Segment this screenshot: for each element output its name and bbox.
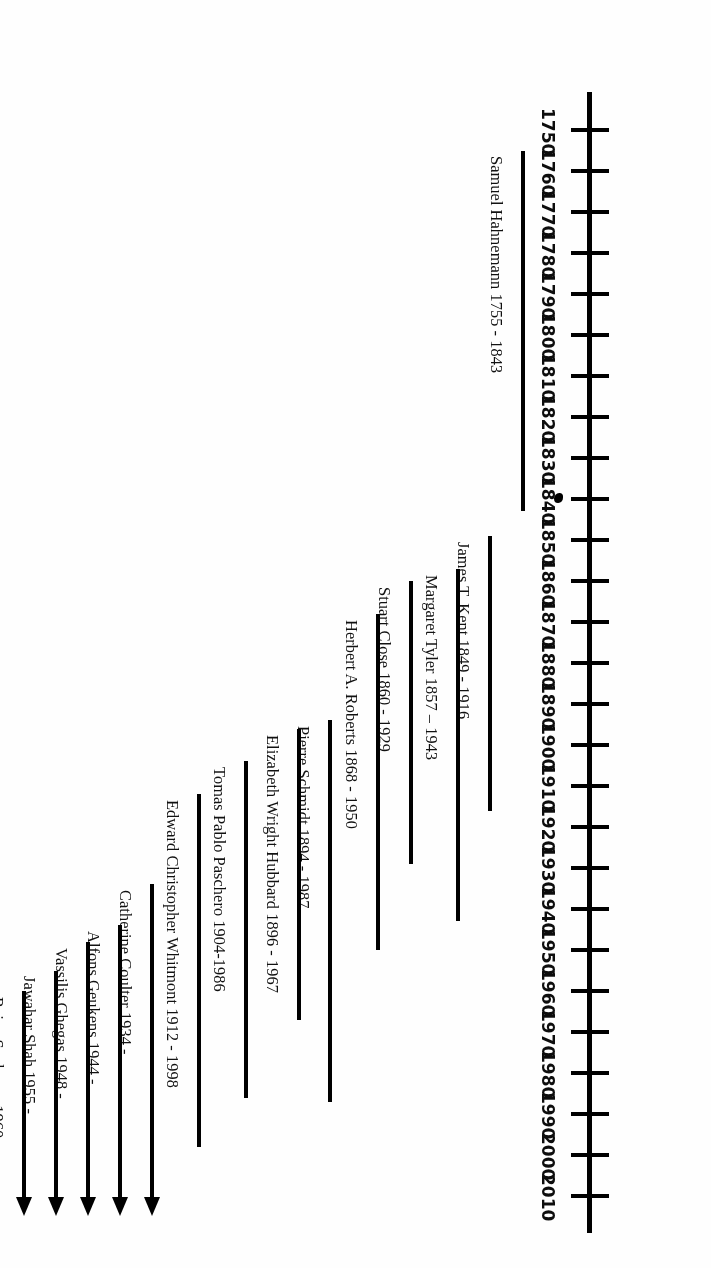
lifespan-label: Pierre Schmidt 1894 - 1987: [293, 726, 313, 908]
year-tick: [571, 1194, 609, 1198]
lifespan-bar: [244, 761, 248, 1097]
lifespan-label: Elizabeth Wright Hubbard 1896 - 1967: [262, 735, 282, 993]
year-tick: [571, 1112, 609, 1116]
lifespan-bar: [409, 581, 413, 864]
year-tick: [571, 333, 609, 337]
year-tick: [571, 620, 609, 624]
year-tick-label: 1780: [538, 231, 558, 278]
lifespan-bar: [150, 884, 154, 1198]
year-tick-label: 1800: [538, 313, 558, 360]
year-tick-label: 1760: [538, 149, 558, 196]
year-tick: [571, 784, 609, 788]
year-tick: [571, 825, 609, 829]
lifespan-bar: [297, 729, 301, 1020]
year-tick-label: 1960: [538, 969, 558, 1016]
ink-blob-artifact: [554, 493, 563, 503]
year-tick: [571, 251, 609, 255]
timeline-figure: 2010200019901980197019601950194019301920…: [0, 0, 711, 1268]
lifespan-label: Samuel Hahnemann 1755 - 1843: [486, 157, 506, 374]
lifespan-bar: [456, 569, 460, 922]
year-tick: [571, 1030, 609, 1034]
year-tick-label: 1920: [538, 805, 558, 852]
year-tick: [571, 743, 609, 747]
lifespan-bar: [521, 151, 525, 512]
lifespan-bar: [488, 536, 492, 811]
lifespan-bar: [86, 942, 90, 1199]
year-tick: [571, 497, 609, 501]
ongoing-arrow-icon: [48, 1197, 64, 1216]
year-tick-label: 1980: [538, 1051, 558, 1098]
year-tick-label: 1850: [538, 518, 558, 565]
year-tick-label: 1810: [538, 354, 558, 401]
year-tick-label: 1790: [538, 272, 558, 319]
year-tick: [571, 292, 609, 296]
year-tick: [571, 1153, 609, 1157]
year-tick-label: 1750: [538, 108, 558, 155]
year-tick-label: 1770: [538, 190, 558, 237]
ongoing-arrow-icon: [144, 1197, 160, 1216]
year-tick: [571, 948, 609, 952]
year-tick-label: 1870: [538, 600, 558, 647]
lifespan-bar: [54, 971, 58, 1199]
lifespan-label: Edward Christopher Whitmont 1912 - 1998: [162, 800, 182, 1088]
year-tick: [571, 1071, 609, 1075]
year-tick: [571, 907, 609, 911]
year-tick-label: 1900: [538, 723, 558, 770]
ongoing-arrow-icon: [80, 1197, 96, 1216]
year-tick-label: 2000: [538, 1133, 558, 1180]
year-tick-label: 1990: [538, 1092, 558, 1139]
year-tick-label: 2010: [538, 1174, 558, 1221]
year-tick: [571, 661, 609, 665]
year-tick: [571, 989, 609, 993]
lifespan-label: Margaret Tyler 1857 – 1943: [421, 575, 441, 760]
ongoing-arrow-icon: [16, 1197, 32, 1216]
year-tick: [571, 128, 609, 132]
year-tick-label: 1950: [538, 928, 558, 975]
year-tick: [571, 169, 609, 173]
year-tick-label: 1890: [538, 682, 558, 729]
year-tick: [571, 210, 609, 214]
year-tick-label: 1820: [538, 395, 558, 442]
year-tick: [571, 415, 609, 419]
lifespan-label: Herbert A. Roberts 1868 - 1950: [341, 620, 361, 829]
lifespan-label: Rajan Sankaran 1960 -: [0, 997, 7, 1148]
lifespan-bar: [376, 614, 380, 950]
year-tick-label: 1830: [538, 436, 558, 483]
lifespan-bar: [197, 794, 201, 1147]
year-tick: [571, 579, 609, 583]
lifespan-label: Tomas Pablo Paschero 1904-1986: [209, 767, 229, 992]
year-tick: [571, 456, 609, 460]
year-tick: [571, 538, 609, 542]
lifespan-bar: [22, 991, 26, 1198]
year-tick-label: 1910: [538, 764, 558, 811]
year-tick-label: 1930: [538, 846, 558, 893]
year-tick: [571, 702, 609, 706]
lifespan-bar: [328, 720, 332, 1101]
year-tick-label: 1940: [538, 887, 558, 934]
year-tick-label: 1970: [538, 1010, 558, 1057]
ongoing-arrow-icon: [112, 1197, 128, 1216]
lifespan-bar: [118, 925, 122, 1198]
year-tick: [571, 374, 609, 378]
year-tick-label: 1880: [538, 641, 558, 688]
year-tick: [571, 866, 609, 870]
year-tick-label: 1860: [538, 559, 558, 606]
